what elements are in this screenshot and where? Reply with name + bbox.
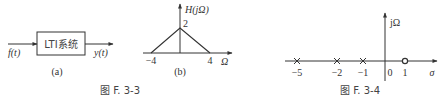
tick-minus-4: −4 bbox=[146, 55, 157, 66]
tick-minus-1: −1 bbox=[358, 67, 369, 78]
figure-b-frequency-response: H(jΩ) 2 −4 4 Ω (b) bbox=[143, 4, 232, 78]
omega-axis-label: Ω bbox=[221, 56, 228, 67]
tick-minus-2: −2 bbox=[332, 67, 343, 78]
figure-3-4-pole-zero-plot: jΩ −5 −2 −1 0 1 σ bbox=[285, 13, 437, 81]
sublabel-b: (b) bbox=[174, 66, 186, 78]
figure-a-block-diagram: LTI系统 f(t) y(t) (a) bbox=[8, 32, 113, 78]
zero-at-1 bbox=[402, 58, 407, 63]
sigma-label: σ bbox=[430, 67, 436, 78]
tick-minus-5: −5 bbox=[292, 67, 303, 78]
caption-f-3-3: 图 F. 3-3 bbox=[100, 85, 140, 96]
figure-canvas: LTI系统 f(t) y(t) (a) H(jΩ) 2 −4 4 Ω (b) 图… bbox=[0, 0, 445, 105]
caption-f-3-4: 图 F. 3-4 bbox=[340, 85, 380, 96]
h-axis-label: H(jΩ) bbox=[184, 4, 210, 16]
tick-0: 0 bbox=[388, 67, 393, 78]
tick-1: 1 bbox=[403, 67, 408, 78]
tick-4: 4 bbox=[208, 55, 213, 66]
sublabel-a: (a) bbox=[51, 66, 62, 78]
lti-system-label: LTI系统 bbox=[44, 38, 77, 50]
peak-label: 2 bbox=[183, 18, 188, 29]
j-omega-label: jΩ bbox=[389, 17, 400, 28]
input-label: f(t) bbox=[8, 47, 21, 59]
output-label: y(t) bbox=[93, 47, 109, 59]
